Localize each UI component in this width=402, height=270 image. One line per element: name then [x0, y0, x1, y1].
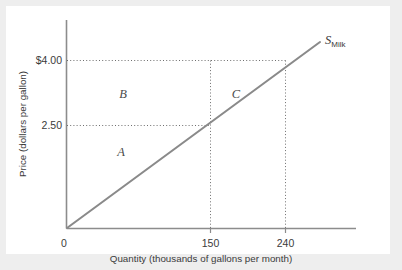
region-label-b: B	[119, 87, 127, 101]
x-tick-label-0: 0	[61, 237, 67, 249]
y-tick-label-400: $4.00	[36, 54, 62, 66]
x-tick-label-150: 150	[202, 237, 220, 249]
region-label-c: C	[232, 87, 241, 101]
supply-curve-label-subscript: Milk	[331, 40, 346, 49]
chart-canvas: $4.00 2.50 0 150 240 Quantity (thousands…	[0, 0, 402, 270]
supply-curve-line	[67, 42, 320, 228]
y-tick-label-250: 2.50	[42, 119, 63, 131]
region-label-a: A	[116, 145, 125, 159]
x-axis-title: Quantity (thousands of gallons per month…	[110, 253, 292, 264]
y-axis-title: Price (dollars per gallon)	[17, 71, 28, 177]
x-tick-label-240: 240	[277, 237, 295, 249]
supply-curve-figure: $4.00 2.50 0 150 240 Quantity (thousands…	[0, 0, 402, 270]
supply-curve-label: SMilk	[325, 33, 346, 49]
